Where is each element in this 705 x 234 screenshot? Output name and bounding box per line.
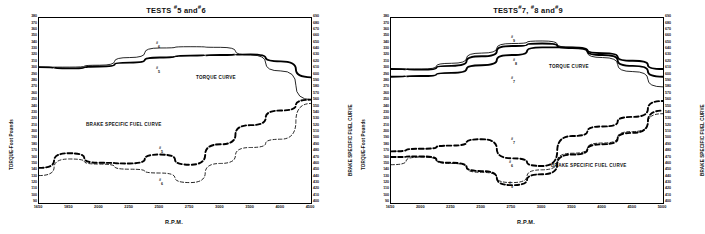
y-tick-left: 310 xyxy=(31,60,37,64)
x-tick: 5000 xyxy=(658,205,667,209)
x-tick: 2000 xyxy=(94,205,103,209)
series-label-fuel-9: #9 xyxy=(509,181,513,189)
y-tick-right: 610 xyxy=(665,66,671,70)
x-tick: 1650 xyxy=(386,205,395,209)
y-tick-left: 160 xyxy=(383,156,389,160)
y-tick-left: 300 xyxy=(383,66,389,70)
fuel-curves-left xyxy=(39,100,311,183)
y-tick-left: 100 xyxy=(383,194,389,198)
fuel-curves-right xyxy=(391,101,663,185)
y-axis-left-ticks-right-panel: 9010011012013014015016017018019020021022… xyxy=(363,17,389,202)
curves-svg-left xyxy=(39,18,311,203)
y-tick-right: 560 xyxy=(313,98,319,102)
torque-curves-left xyxy=(39,47,311,100)
y-tick-left: 120 xyxy=(31,181,37,185)
x-tick: 4500 xyxy=(306,205,315,209)
y-tick-right: 620 xyxy=(665,60,671,64)
y-tick-left: 300 xyxy=(31,66,37,70)
y-tick-right: 460 xyxy=(665,162,671,166)
y-tick-right: 630 xyxy=(665,53,671,57)
y-tick-left: 260 xyxy=(31,92,37,96)
y-tick-right: 420 xyxy=(665,187,671,191)
y-tick-left: 260 xyxy=(383,92,389,96)
y-tick-left: 250 xyxy=(383,98,389,102)
y-tick-right: 580 xyxy=(313,85,319,89)
y-tick-right: 690 xyxy=(313,15,319,19)
y-tick-left: 380 xyxy=(383,15,389,19)
y-tick-right: 620 xyxy=(313,60,319,64)
y-tick-right: 470 xyxy=(665,156,671,160)
y-tick-left: 170 xyxy=(383,149,389,153)
y-tick-right: 420 xyxy=(313,187,319,191)
y-tick-right: 470 xyxy=(313,156,319,160)
y-tick-left: 110 xyxy=(383,187,389,191)
y-tick-left: 240 xyxy=(31,105,37,109)
y-tick-left: 130 xyxy=(31,175,37,179)
x-tick: 2250 xyxy=(124,205,133,209)
y-tick-left: 170 xyxy=(31,149,37,153)
y-axis-right-ticks-right-panel: 4004104204304404504604704804905005105205… xyxy=(664,17,690,202)
y-tick-right: 480 xyxy=(665,149,671,153)
x-tick: 2500 xyxy=(155,205,164,209)
y-tick-right: 450 xyxy=(313,168,319,172)
y-tick-left: 230 xyxy=(383,111,389,115)
y-tick-right: 430 xyxy=(313,181,319,185)
y-tick-left: 320 xyxy=(383,53,389,57)
x-tick: 3000 xyxy=(215,205,224,209)
y-tick-right: 590 xyxy=(665,79,671,83)
x-axis-ticks-left: 1650185020002250250027503000350040004500 xyxy=(38,205,310,215)
y-tick-right: 590 xyxy=(313,79,319,83)
y-tick-left: 370 xyxy=(31,22,37,26)
y-tick-right: 680 xyxy=(665,22,671,26)
y-tick-right: 520 xyxy=(665,124,671,128)
y-tick-left: 310 xyxy=(383,60,389,64)
y-tick-right: 490 xyxy=(313,143,319,147)
chart-panel-tests-5-6: TESTS #5 and#6 9010011012013014015016017… xyxy=(0,0,352,234)
y-tick-left: 150 xyxy=(383,162,389,166)
y-tick-left: 100 xyxy=(31,194,37,198)
y-tick-left: 200 xyxy=(383,130,389,134)
plot-area-right: #9 #8 #7 TORQUE CURVE #7 #6 #9 BRAKE SPE… xyxy=(390,17,664,204)
y-tick-left: 360 xyxy=(31,28,37,32)
y-tick-left: 220 xyxy=(31,117,37,121)
x-tick: 3500 xyxy=(245,205,254,209)
y-tick-left: 200 xyxy=(31,130,37,134)
y-tick-left: 210 xyxy=(31,124,37,128)
y-tick-right: 450 xyxy=(665,168,671,172)
y-tick-right: 680 xyxy=(313,22,319,26)
x-tick: 1650 xyxy=(34,205,43,209)
y-tick-right: 510 xyxy=(665,130,671,134)
y-tick-left: 320 xyxy=(31,53,37,57)
series-label-torque-8: #8 xyxy=(513,58,517,66)
y-tick-left: 190 xyxy=(31,136,37,140)
y-tick-right: 650 xyxy=(313,41,319,45)
y-tick-right: 430 xyxy=(665,181,671,185)
curves-svg-right xyxy=(391,18,663,203)
y-tick-right: 610 xyxy=(313,66,319,70)
x-tick: 3000 xyxy=(537,205,546,209)
y-tick-left: 280 xyxy=(383,79,389,83)
y-tick-right: 570 xyxy=(313,92,319,96)
y-tick-right: 570 xyxy=(665,92,671,96)
y-tick-left: 380 xyxy=(31,15,37,19)
y-tick-left: 290 xyxy=(31,73,37,77)
curve-9torque xyxy=(391,47,663,76)
curve-6torque xyxy=(39,47,311,100)
y-axis-left-ticks-left-panel: 9010011012013014015016017018019020021022… xyxy=(11,17,37,202)
y-tick-left: 150 xyxy=(31,162,37,166)
y-axis-right-ticks-left-panel: 4004104204304404504604704804905005105205… xyxy=(312,17,338,202)
y-tick-left: 370 xyxy=(383,22,389,26)
y-tick-right: 690 xyxy=(665,15,671,19)
series-label-torque-5: #5 xyxy=(156,66,160,74)
y-tick-right: 670 xyxy=(313,28,319,32)
y-tick-right: 410 xyxy=(313,194,319,198)
y-tick-right: 660 xyxy=(665,34,671,38)
y-tick-right: 650 xyxy=(665,41,671,45)
y-tick-left: 240 xyxy=(383,105,389,109)
y-tick-left: 140 xyxy=(31,168,37,172)
panel-title-left: TESTS #5 and#6 xyxy=(0,4,352,15)
x-tick: 2500 xyxy=(476,205,485,209)
chart-panel-tests-7-8-9: TESTS#7, #8 and#9 9010011012013014015016… xyxy=(352,0,704,234)
curve-5fuel xyxy=(39,100,311,168)
